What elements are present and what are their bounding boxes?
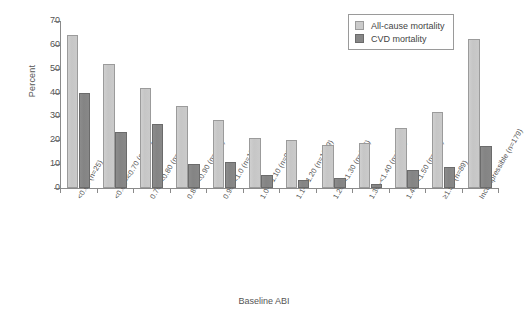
x-axis-title: Baseline ABI	[0, 296, 528, 306]
y-axis-tick-label: 50	[26, 63, 60, 73]
x-axis-tick	[389, 188, 390, 193]
y-axis-title: Percent	[27, 51, 37, 111]
legend-item-cvd-mortality: CVD mortality	[355, 32, 445, 45]
y-axis-tick-label-wrap: 50	[16, 69, 60, 70]
y-axis-tick-label: 10	[26, 158, 60, 168]
bar-cvd-mortality	[261, 175, 273, 188]
y-axis-tick-label: 0	[26, 182, 60, 192]
legend-label-all-cause: All-cause mortality	[371, 21, 445, 31]
y-axis-tick-label: 30	[26, 110, 60, 120]
bar-cvd-mortality	[298, 180, 310, 188]
y-axis-tick-label-wrap: 40	[16, 93, 60, 94]
y-axis-tick-label-wrap: 0	[16, 188, 60, 189]
bar-all-cause-mortality	[322, 145, 334, 188]
x-axis-tick	[316, 188, 317, 193]
y-axis-tick-label-wrap: 10	[16, 164, 60, 165]
chart-figure: Percent 010203040506070 <0.60 (n=25)<0.6…	[0, 0, 528, 318]
bar-all-cause-mortality	[176, 106, 188, 188]
y-axis-line	[60, 21, 61, 188]
legend-swatch-icon-cvd	[355, 34, 364, 43]
bar-cvd-mortality	[188, 164, 200, 188]
bar-cvd-mortality	[225, 162, 237, 188]
y-axis-tick-label-wrap: 60	[16, 45, 60, 46]
y-axis-tick-label-wrap: 20	[16, 140, 60, 141]
x-axis-tick	[206, 188, 207, 193]
y-axis-tick-label: 20	[26, 134, 60, 144]
x-axis-tick	[462, 188, 463, 193]
bar-cvd-mortality	[79, 93, 91, 188]
bar-cvd-mortality	[334, 178, 346, 188]
y-axis-tick-label: 60	[26, 39, 60, 49]
x-axis-tick	[97, 188, 98, 193]
chart-legend: All-cause mortality CVD mortality	[348, 14, 454, 50]
legend-swatch-icon-all-cause	[355, 21, 364, 30]
bar-all-cause-mortality	[67, 35, 79, 188]
bar-cvd-mortality	[480, 146, 492, 188]
bar-cvd-mortality	[115, 132, 127, 188]
bar-all-cause-mortality	[286, 140, 298, 188]
legend-label-cvd: CVD mortality	[371, 34, 427, 44]
x-axis-tick	[425, 188, 426, 193]
y-axis-tick-label-wrap: 70	[16, 21, 60, 22]
x-axis-tick	[243, 188, 244, 193]
bar-all-cause-mortality	[249, 138, 261, 188]
bar-cvd-mortality	[407, 170, 419, 188]
bar-cvd-mortality	[152, 124, 164, 188]
bar-cvd-mortality	[371, 184, 383, 188]
x-axis-tick	[170, 188, 171, 193]
x-axis-tick	[60, 188, 61, 193]
bar-all-cause-mortality	[432, 112, 444, 188]
bar-all-cause-mortality	[359, 143, 371, 188]
x-axis-tick	[279, 188, 280, 193]
bar-cvd-mortality	[444, 167, 456, 188]
y-axis-tick-label: 40	[26, 87, 60, 97]
bar-all-cause-mortality	[103, 64, 115, 188]
legend-item-all-cause-mortality: All-cause mortality	[355, 19, 445, 32]
x-axis-tick	[498, 188, 499, 193]
x-axis-tick	[133, 188, 134, 193]
bar-all-cause-mortality	[140, 88, 152, 188]
x-axis-tick	[352, 188, 353, 193]
bar-all-cause-mortality	[213, 120, 225, 188]
y-axis-tick-label: 70	[26, 15, 60, 25]
y-axis-tick-label-wrap: 30	[16, 116, 60, 117]
bar-all-cause-mortality	[395, 128, 407, 188]
bar-all-cause-mortality	[468, 39, 480, 188]
